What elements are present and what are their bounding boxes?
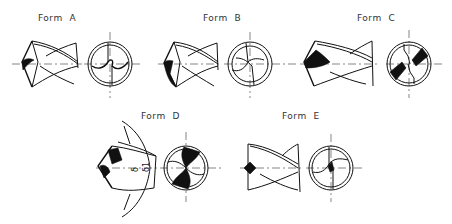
form-d-end-view: [160, 132, 222, 202]
form-a-end-view: [84, 32, 142, 98]
form-b-end-view: [224, 32, 296, 98]
form-a-side-view: [12, 41, 82, 87]
form-c-side-view: [300, 41, 380, 86]
angle-delta1-symbol: δ1: [142, 162, 151, 172]
form-d-side-view: δ δ1: [96, 121, 160, 217]
angle-delta-symbol: δ: [131, 167, 140, 172]
form-e-side-view: [240, 144, 302, 192]
form-b-side-view: [158, 42, 222, 87]
drill-point-forms-drawing: δ δ1: [0, 0, 452, 224]
form-e-end-view: [306, 134, 364, 202]
form-c-end-view: [386, 30, 444, 98]
